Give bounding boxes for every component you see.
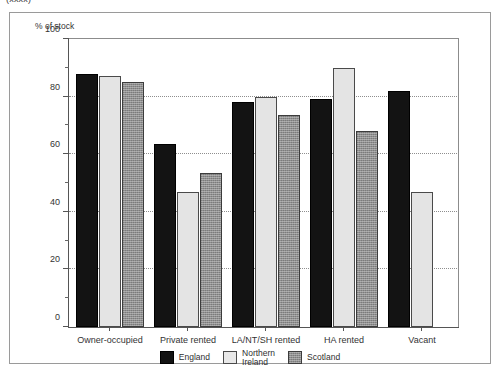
- bar-england: [388, 91, 410, 327]
- bar-scotland: [356, 131, 378, 327]
- x-axis-tick-5: [421, 327, 422, 331]
- legend-swatch-2: [223, 351, 237, 364]
- y-axis-minor-tick-70: [65, 124, 69, 125]
- y-axis-minor-tick-10: [65, 297, 69, 298]
- bar-ni: [333, 68, 355, 327]
- bar-scotland: [278, 115, 300, 327]
- x-axis-label-3: LA/NT/SH rented: [232, 335, 301, 345]
- y-axis-minor-tick-90: [65, 67, 69, 68]
- bar-group-1: [76, 39, 145, 327]
- legend-item-2: Northern Ireland: [223, 349, 275, 367]
- legend-label-3: Scotland: [307, 353, 340, 362]
- chart-legend: EnglandNorthern IrelandScotland: [10, 349, 490, 367]
- y-axis-tick-100: [63, 38, 69, 39]
- x-axis-label-2: Private rented: [160, 335, 216, 345]
- bar-england: [154, 144, 176, 327]
- figure-frame: % of stock 020406080100Owner-occupiedPri…: [9, 12, 491, 364]
- y-axis-label-100: 100: [45, 24, 60, 34]
- bar-ni: [99, 76, 121, 327]
- bar-ni: [177, 192, 199, 327]
- legend-item-3: Scotland: [288, 351, 340, 364]
- bar-group-3: [232, 39, 301, 327]
- y-axis-tick-20: [63, 268, 69, 269]
- x-axis-tick-4: [343, 327, 344, 331]
- y-axis-label-80: 80: [50, 82, 60, 92]
- legend-swatch-3: [288, 351, 302, 364]
- legend-swatch-1: [160, 351, 174, 364]
- bar-group-4: [310, 39, 379, 327]
- bar-group-2: [154, 39, 223, 327]
- y-axis-label-20: 20: [50, 254, 60, 264]
- x-axis-label-1: Owner-occupied: [77, 335, 143, 345]
- x-axis-label-5: Vacant: [408, 335, 435, 345]
- y-axis-minor-tick-30: [65, 240, 69, 241]
- plot-area: 020406080100Owner-occupiedPrivate rented…: [68, 39, 459, 328]
- x-axis-tick-3: [265, 327, 266, 331]
- bar-england: [76, 74, 98, 327]
- y-axis-tick-40: [63, 211, 69, 212]
- x-axis-tick-2: [187, 327, 188, 331]
- x-axis-tick-1: [109, 327, 110, 331]
- figure-caption: (xxxx): [6, 0, 31, 4]
- bar-group-5: [388, 39, 457, 327]
- y-axis-minor-tick-50: [65, 182, 69, 183]
- bar-scotland: [200, 173, 222, 327]
- y-axis-tick-0: [63, 326, 69, 327]
- y-axis-tick-80: [63, 96, 69, 97]
- legend-label-2: Northern Ireland: [242, 349, 275, 367]
- y-axis-label-60: 60: [50, 139, 60, 149]
- legend-item-1: England: [160, 351, 210, 364]
- bar-ni: [255, 97, 277, 327]
- bar-ni: [411, 192, 433, 327]
- x-axis-label-4: HA rented: [324, 335, 364, 345]
- y-axis-label-0: 0: [55, 312, 60, 322]
- bar-england: [232, 102, 254, 327]
- y-axis-label-40: 40: [50, 197, 60, 207]
- bar-scotland: [122, 82, 144, 327]
- legend-label-1: England: [179, 353, 210, 362]
- bar-england: [310, 99, 332, 327]
- y-axis-tick-60: [63, 153, 69, 154]
